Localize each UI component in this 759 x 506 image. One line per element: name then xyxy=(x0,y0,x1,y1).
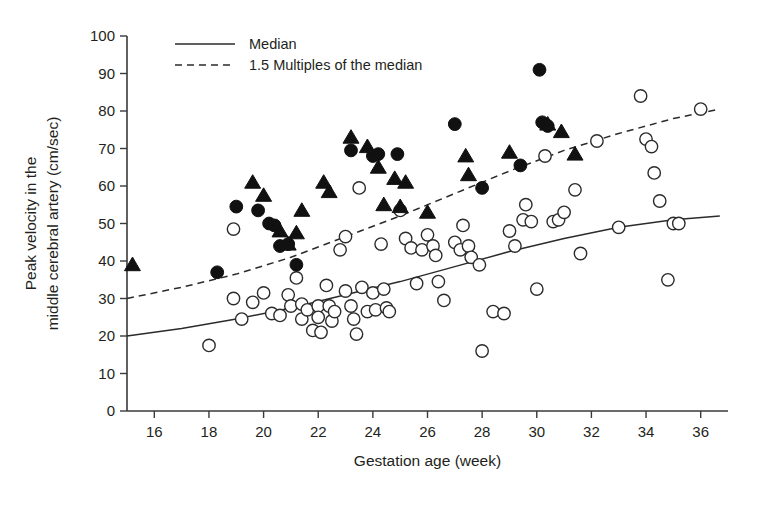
y-ticks: 0102030405060708090100 xyxy=(90,27,127,419)
data-point-open-circle xyxy=(438,294,450,306)
data-point-open-circle xyxy=(520,199,532,211)
data-point-open-circle xyxy=(375,238,387,250)
y-tick-label: 40 xyxy=(98,252,115,269)
data-point-open-circle xyxy=(430,249,442,261)
data-point-open-circle xyxy=(531,283,543,295)
data-point-filled-circle xyxy=(345,144,358,157)
data-point-filled-circle xyxy=(391,148,404,161)
legend-label-1: Median xyxy=(249,36,297,52)
y-axis-label-line2: middle cerebral artery (cm/sec) xyxy=(44,117,61,331)
data-point-open-circle xyxy=(476,345,488,357)
data-point-open-circle xyxy=(350,328,362,340)
data-point-open-circle xyxy=(539,150,551,162)
data-point-open-circle xyxy=(227,292,239,304)
data-point-open-circle xyxy=(274,309,286,321)
y-tick-label: 30 xyxy=(98,290,115,307)
data-point-filled-triangle xyxy=(458,148,474,162)
y-tick-label: 10 xyxy=(98,365,115,382)
data-point-filled-circle xyxy=(533,63,546,76)
scatter-plot: 0102030405060708090100161820222426283032… xyxy=(0,0,759,506)
y-tick-label: 90 xyxy=(98,65,115,82)
data-point-filled-triangle xyxy=(387,171,403,185)
y-tick-label: 80 xyxy=(98,102,115,119)
data-point-open-circle xyxy=(525,215,537,227)
data-point-open-circle xyxy=(320,279,332,291)
data-point-filled-circle xyxy=(514,159,527,172)
data-point-open-circle xyxy=(315,326,327,338)
y-tick-label: 50 xyxy=(98,215,115,232)
y-tick-label: 0 xyxy=(107,402,115,419)
data-point-open-circle xyxy=(558,206,570,218)
data-point-filled-triangle xyxy=(553,124,569,138)
data-point-open-circle xyxy=(353,182,365,194)
data-point-filled-triangle xyxy=(294,203,310,217)
data-point-open-circle xyxy=(695,103,707,115)
x-tick-label: 32 xyxy=(583,423,600,440)
data-point-filled-triangle xyxy=(392,199,408,213)
data-point-filled-circle xyxy=(476,182,489,195)
data-point-open-circle xyxy=(591,135,603,147)
data-point-open-circle xyxy=(509,240,521,252)
data-point-filled-triangle xyxy=(288,225,304,239)
data-point-open-circle xyxy=(227,223,239,235)
data-point-open-circle xyxy=(247,296,259,308)
data-point-open-circle xyxy=(503,225,515,237)
data-point-open-circle xyxy=(290,272,302,284)
data-point-filled-triangle xyxy=(420,205,436,219)
data-point-open-circle xyxy=(648,167,660,179)
data-point-open-circle xyxy=(383,305,395,317)
x-tick-label: 20 xyxy=(255,423,272,440)
data-point-open-circle xyxy=(654,195,666,207)
data-point-filled-triangle xyxy=(376,197,392,211)
data-point-open-circle xyxy=(339,285,351,297)
x-tick-label: 28 xyxy=(474,423,491,440)
data-point-filled-triangle xyxy=(245,175,261,189)
y-axis-label-line1: Peak velocity in the xyxy=(22,157,39,291)
data-point-open-circle xyxy=(569,184,581,196)
chart-container: 0102030405060708090100161820222426283032… xyxy=(0,0,759,506)
data-point-open-circle xyxy=(339,230,351,242)
data-point-open-circle xyxy=(662,274,674,286)
x-tick-label: 26 xyxy=(419,423,436,440)
x-tick-label: 16 xyxy=(146,423,163,440)
x-tick-label: 24 xyxy=(365,423,382,440)
data-point-open-circle xyxy=(282,289,294,301)
data-point-open-circle xyxy=(328,305,340,317)
data-point-open-circle xyxy=(236,313,248,325)
data-point-open-circle xyxy=(432,275,444,287)
data-point-open-circle xyxy=(462,240,474,252)
data-point-filled-circle xyxy=(211,266,224,279)
data-point-open-circle xyxy=(203,339,215,351)
data-point-open-circle xyxy=(334,244,346,256)
x-tick-label: 18 xyxy=(201,423,218,440)
data-point-filled-circle xyxy=(252,204,265,217)
y-tick-label: 60 xyxy=(98,177,115,194)
y-tick-label: 100 xyxy=(90,27,115,44)
data-point-open-circle xyxy=(473,259,485,271)
data-point-open-circle xyxy=(645,140,657,152)
x-axis-label: Gestation age (week) xyxy=(354,452,501,469)
data-point-open-circle xyxy=(457,219,469,231)
data-point-filled-triangle xyxy=(359,139,375,153)
legend-label-2: 1.5 Multiples of the median xyxy=(249,57,422,73)
data-point-filled-circle xyxy=(290,258,303,271)
x-ticks: 1618202224262830323436 xyxy=(146,411,709,440)
data-point-open-circle xyxy=(574,247,586,259)
data-point-filled-circle xyxy=(448,118,461,131)
y-tick-label: 20 xyxy=(98,327,115,344)
data-point-filled-triangle xyxy=(502,145,518,159)
x-tick-label: 36 xyxy=(692,423,709,440)
data-point-open-circle xyxy=(348,313,360,325)
data-point-open-circle xyxy=(421,229,433,241)
data-point-open-circle xyxy=(345,300,357,312)
data-point-filled-circle xyxy=(230,200,243,213)
x-tick-label: 30 xyxy=(528,423,545,440)
data-point-open-circle xyxy=(498,307,510,319)
data-point-open-circle xyxy=(378,283,390,295)
x-tick-label: 34 xyxy=(638,423,655,440)
trend-curves xyxy=(127,109,720,336)
y-tick-label: 70 xyxy=(98,140,115,157)
legend: Median1.5 Multiples of the median xyxy=(175,36,422,73)
data-point-filled-triangle xyxy=(256,188,272,202)
data-point-filled-triangle xyxy=(461,167,477,181)
